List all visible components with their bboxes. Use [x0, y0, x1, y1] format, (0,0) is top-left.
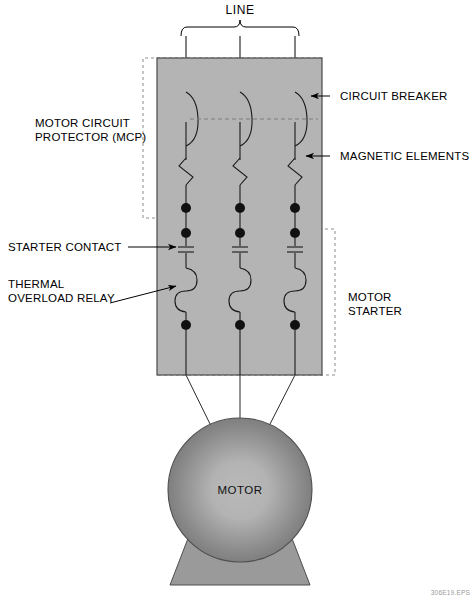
circuit-breaker-callout: CIRCUIT BREAKER [311, 90, 448, 102]
motor-starter-callout: MOTOR STARTER [348, 291, 402, 317]
starter-contact-label: STARTER CONTACT [8, 241, 122, 253]
magnetic-elements-callout: MAGNETIC ELEMENTS [306, 150, 469, 162]
line-label: LINE [225, 3, 254, 17]
terminal-dot [235, 203, 245, 213]
mcp-label-line-1: MOTOR CIRCUIT [35, 117, 130, 129]
line-bracket [181, 20, 299, 36]
motor-starter-label-line-2: STARTER [348, 305, 402, 317]
terminal-dot [235, 228, 245, 238]
mcp-label-line-2: PROTECTOR (MCP) [35, 131, 146, 143]
motor-lead-1 [186, 375, 212, 428]
motor-lead-3 [268, 375, 295, 428]
circuit-breaker-label: CIRCUIT BREAKER [340, 90, 448, 102]
terminal-dot [235, 320, 245, 330]
magnetic-elements-label: MAGNETIC ELEMENTS [340, 150, 469, 162]
terminal-dot [290, 203, 300, 213]
terminal-dot [290, 320, 300, 330]
thermal-overload-callout: THERMAL OVERLOAD RELAY [8, 278, 176, 304]
diagram-canvas: LINE [0, 0, 475, 601]
terminal-dot [181, 203, 191, 213]
terminal-dot [181, 228, 191, 238]
motor-starter-label-line-1: MOTOR [348, 291, 392, 303]
motor-starter-schematic: LINE [0, 0, 475, 601]
figure-credit: 306E19.EPS [431, 589, 471, 596]
thermal-overload-label-line-1: THERMAL [8, 278, 65, 290]
starter-contact-callout: STARTER CONTACT [8, 241, 176, 253]
mcp-callout: MOTOR CIRCUIT PROTECTOR (MCP) [35, 117, 146, 143]
terminal-dot [290, 228, 300, 238]
terminal-dot [181, 320, 191, 330]
thermal-overload-label-line-2: OVERLOAD RELAY [8, 292, 115, 304]
motor-body-label: MOTOR [217, 484, 262, 496]
